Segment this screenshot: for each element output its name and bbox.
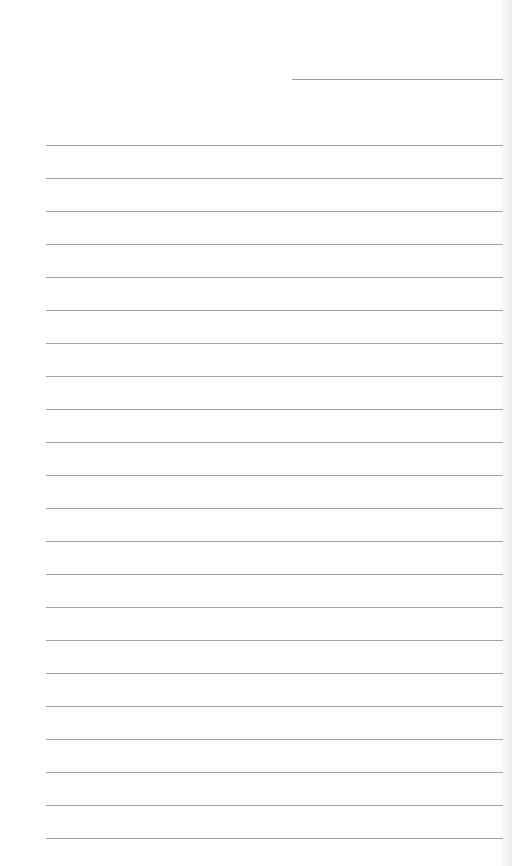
lined-paper-page xyxy=(0,0,512,866)
ruled-lines xyxy=(46,0,503,866)
ruled-line xyxy=(46,277,503,278)
ruled-line xyxy=(46,244,503,245)
ruled-line xyxy=(46,508,503,509)
ruled-line xyxy=(46,475,503,476)
ruled-line xyxy=(46,376,503,377)
ruled-line xyxy=(46,211,503,212)
ruled-line xyxy=(46,178,503,179)
ruled-line xyxy=(46,442,503,443)
ruled-line xyxy=(46,145,503,146)
ruled-line xyxy=(46,541,503,542)
ruled-line xyxy=(46,409,503,410)
page-edge-shadow xyxy=(500,0,512,866)
ruled-line xyxy=(46,673,503,674)
ruled-line xyxy=(46,805,503,806)
ruled-line xyxy=(46,607,503,608)
ruled-line xyxy=(46,640,503,641)
ruled-line xyxy=(46,343,503,344)
ruled-line xyxy=(46,739,503,740)
ruled-line xyxy=(46,706,503,707)
ruled-line xyxy=(46,838,503,839)
ruled-line xyxy=(46,574,503,575)
ruled-line xyxy=(46,772,503,773)
ruled-line xyxy=(46,310,503,311)
